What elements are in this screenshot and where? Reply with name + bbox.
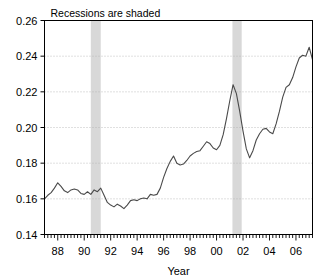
chart-title: Recessions are shaded	[51, 7, 161, 19]
x-tick-label-04: 04	[263, 245, 275, 257]
plot-area	[45, 21, 313, 235]
x-tick-label-92: 92	[105, 245, 117, 257]
x-tick-label-98: 98	[184, 245, 196, 257]
y-tick-label-0.16: 0.16	[16, 193, 37, 205]
x-tick-label-02: 02	[237, 245, 249, 257]
x-tick-label-00: 00	[210, 245, 222, 257]
x-tick-label-96: 96	[157, 245, 169, 257]
x-tick-label-06: 06	[290, 245, 302, 257]
x-tick-label-90: 90	[78, 245, 90, 257]
recessions-line-chart: 0.140.160.180.200.220.240.26889092949698…	[0, 0, 324, 279]
y-tick-label-0.14: 0.14	[16, 229, 37, 241]
chart-container: 0.140.160.180.200.220.240.26889092949698…	[0, 0, 324, 279]
x-tick-label-88: 88	[52, 245, 64, 257]
x-axis-title: Year	[167, 265, 190, 277]
y-tick-label-0.24: 0.24	[16, 50, 37, 62]
y-tick-label-0.26: 0.26	[16, 15, 37, 27]
y-tick-label-0.22: 0.22	[16, 86, 37, 98]
y-tick-label-0.18: 0.18	[16, 157, 37, 169]
x-tick-label-94: 94	[131, 245, 143, 257]
y-tick-label-0.20: 0.20	[16, 122, 37, 134]
